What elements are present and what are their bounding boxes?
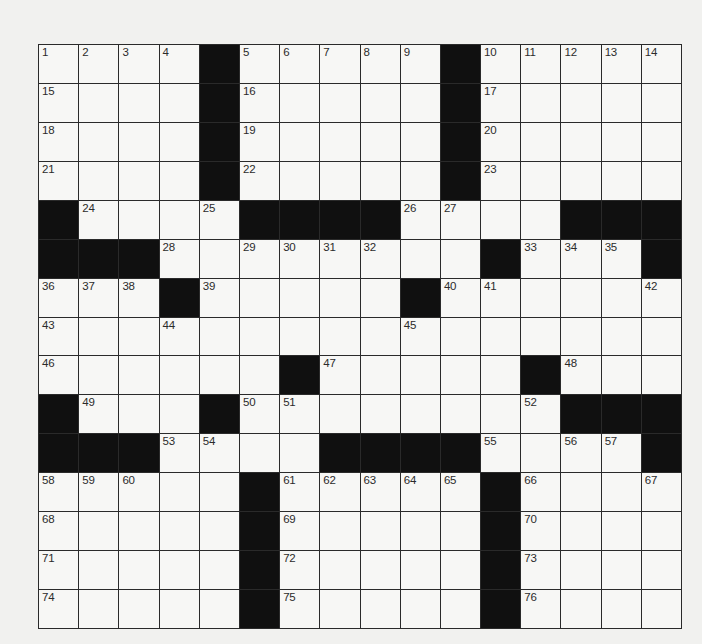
crossword-cell[interactable]: 71: [39, 551, 78, 589]
crossword-cell[interactable]: [361, 123, 400, 161]
crossword-cell[interactable]: 52: [521, 395, 560, 433]
crossword-cell[interactable]: [561, 473, 600, 511]
crossword-cell[interactable]: [79, 162, 118, 200]
crossword-cell[interactable]: [361, 162, 400, 200]
crossword-cell[interactable]: [119, 395, 158, 433]
crossword-cell[interactable]: [160, 201, 199, 239]
crossword-cell[interactable]: 7: [320, 45, 359, 83]
crossword-cell[interactable]: 32: [361, 240, 400, 278]
crossword-cell[interactable]: [320, 395, 359, 433]
crossword-cell[interactable]: [79, 123, 118, 161]
crossword-cell[interactable]: [441, 395, 480, 433]
crossword-cell[interactable]: [441, 590, 480, 628]
crossword-cell[interactable]: [401, 590, 440, 628]
crossword-cell[interactable]: [320, 512, 359, 550]
crossword-cell[interactable]: 59: [79, 473, 118, 511]
crossword-cell[interactable]: 17: [481, 84, 520, 122]
crossword-cell[interactable]: [280, 434, 319, 472]
crossword-cell[interactable]: [401, 162, 440, 200]
crossword-cell[interactable]: [401, 123, 440, 161]
crossword-cell[interactable]: 66: [521, 473, 560, 511]
crossword-cell[interactable]: [602, 318, 641, 356]
crossword-cell[interactable]: 24: [79, 201, 118, 239]
crossword-cell[interactable]: [602, 590, 641, 628]
crossword-cell[interactable]: 70: [521, 512, 560, 550]
crossword-cell[interactable]: [521, 162, 560, 200]
crossword-cell[interactable]: 68: [39, 512, 78, 550]
crossword-cell[interactable]: 18: [39, 123, 78, 161]
crossword-cell[interactable]: [481, 201, 520, 239]
crossword-cell[interactable]: [642, 512, 681, 550]
crossword-cell[interactable]: 55: [481, 434, 520, 472]
crossword-cell[interactable]: [361, 395, 400, 433]
crossword-cell[interactable]: [280, 279, 319, 317]
crossword-cell[interactable]: [401, 551, 440, 589]
crossword-cell[interactable]: [119, 201, 158, 239]
crossword-cell[interactable]: [79, 512, 118, 550]
crossword-cell[interactable]: [280, 162, 319, 200]
crossword-cell[interactable]: 63: [361, 473, 400, 511]
crossword-cell[interactable]: [361, 318, 400, 356]
crossword-cell[interactable]: [521, 318, 560, 356]
crossword-cell[interactable]: 42: [642, 279, 681, 317]
crossword-cell[interactable]: 51: [280, 395, 319, 433]
crossword-cell[interactable]: [521, 123, 560, 161]
crossword-cell[interactable]: [602, 84, 641, 122]
crossword-cell[interactable]: 28: [160, 240, 199, 278]
crossword-cell[interactable]: [561, 162, 600, 200]
crossword-cell[interactable]: [240, 318, 279, 356]
crossword-cell[interactable]: [361, 512, 400, 550]
crossword-cell[interactable]: 41: [481, 279, 520, 317]
crossword-cell[interactable]: [561, 279, 600, 317]
crossword-cell[interactable]: [320, 279, 359, 317]
crossword-cell[interactable]: [561, 590, 600, 628]
crossword-cell[interactable]: 72: [280, 551, 319, 589]
crossword-cell[interactable]: [160, 395, 199, 433]
crossword-cell[interactable]: 33: [521, 240, 560, 278]
crossword-cell[interactable]: [441, 356, 480, 394]
crossword-cell[interactable]: [79, 318, 118, 356]
crossword-cell[interactable]: [401, 84, 440, 122]
crossword-cell[interactable]: 62: [320, 473, 359, 511]
crossword-cell[interactable]: [160, 84, 199, 122]
crossword-cell[interactable]: 67: [642, 473, 681, 511]
crossword-cell[interactable]: [119, 162, 158, 200]
crossword-cell[interactable]: 56: [561, 434, 600, 472]
crossword-cell[interactable]: 46: [39, 356, 78, 394]
crossword-cell[interactable]: [521, 434, 560, 472]
crossword-cell[interactable]: 27: [441, 201, 480, 239]
crossword-cell[interactable]: [240, 279, 279, 317]
crossword-cell[interactable]: [79, 590, 118, 628]
crossword-cell[interactable]: [521, 279, 560, 317]
crossword-cell[interactable]: 65: [441, 473, 480, 511]
crossword-cell[interactable]: 5: [240, 45, 279, 83]
crossword-cell[interactable]: 57: [602, 434, 641, 472]
crossword-cell[interactable]: [602, 162, 641, 200]
crossword-cell[interactable]: [280, 123, 319, 161]
crossword-cell[interactable]: [642, 84, 681, 122]
crossword-cell[interactable]: [200, 551, 239, 589]
crossword-cell[interactable]: 14: [642, 45, 681, 83]
crossword-cell[interactable]: [521, 201, 560, 239]
crossword-cell[interactable]: 64: [401, 473, 440, 511]
crossword-cell[interactable]: [441, 512, 480, 550]
crossword-cell[interactable]: [561, 123, 600, 161]
crossword-cell[interactable]: 31: [320, 240, 359, 278]
crossword-cell[interactable]: [401, 356, 440, 394]
crossword-cell[interactable]: 34: [561, 240, 600, 278]
crossword-cell[interactable]: 2: [79, 45, 118, 83]
crossword-cell[interactable]: [200, 512, 239, 550]
crossword-cell[interactable]: [280, 84, 319, 122]
crossword-cell[interactable]: 69: [280, 512, 319, 550]
crossword-cell[interactable]: 6: [280, 45, 319, 83]
crossword-cell[interactable]: [119, 356, 158, 394]
crossword-cell[interactable]: 25: [200, 201, 239, 239]
crossword-cell[interactable]: 13: [602, 45, 641, 83]
crossword-cell[interactable]: 23: [481, 162, 520, 200]
crossword-cell[interactable]: [361, 356, 400, 394]
crossword-cell[interactable]: [160, 162, 199, 200]
crossword-cell[interactable]: [320, 162, 359, 200]
crossword-cell[interactable]: 8: [361, 45, 400, 83]
crossword-cell[interactable]: 75: [280, 590, 319, 628]
crossword-cell[interactable]: 48: [561, 356, 600, 394]
